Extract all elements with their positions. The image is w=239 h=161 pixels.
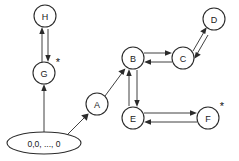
node-F-label: F <box>205 114 211 124</box>
node-start[interactable]: 0,0, ..., 0 <box>7 132 81 154</box>
edge-B-to-C <box>144 50 172 55</box>
edge-E-to-F <box>144 110 197 115</box>
edge-G-to-H <box>39 27 44 62</box>
node-E[interactable]: E <box>122 107 144 129</box>
accepting-star-icon-G: * <box>56 56 61 68</box>
node-E-label: E <box>130 114 136 124</box>
graph-canvas: 0,0, ..., 0 H G * A B C D <box>0 0 239 161</box>
edge-F-to-E <box>144 119 197 124</box>
edge-D-to-C <box>194 35 208 59</box>
edge-A-to-B <box>105 68 125 96</box>
node-H[interactable]: H <box>34 5 56 27</box>
edge-C-to-D <box>193 27 207 51</box>
node-B[interactable]: B <box>122 47 144 69</box>
node-D[interactable]: D <box>203 8 225 30</box>
node-F[interactable]: F <box>197 107 219 129</box>
edge-start-to-G <box>41 84 46 132</box>
accepting-star-icon-F: * <box>220 100 225 112</box>
edge-C-to-B <box>144 59 172 64</box>
edge-E-to-B <box>126 69 131 106</box>
node-D-label: D <box>211 15 218 25</box>
node-C[interactable]: C <box>172 47 194 69</box>
node-C-label: C <box>180 54 187 64</box>
graph-diagram: 0,0, ..., 0 H G * A B C D <box>0 0 239 161</box>
node-H-label: H <box>42 12 49 22</box>
edge-B-to-E <box>134 70 139 107</box>
node-G-label: G <box>40 69 47 79</box>
node-A[interactable]: A <box>86 93 108 115</box>
node-G[interactable]: G <box>33 62 55 84</box>
node-A-label: A <box>94 100 100 110</box>
node-B-label: B <box>130 54 136 64</box>
edge-H-to-G <box>45 29 50 62</box>
edge-start-to-A <box>67 113 89 135</box>
node-start-label: 0,0, ..., 0 <box>27 139 60 149</box>
